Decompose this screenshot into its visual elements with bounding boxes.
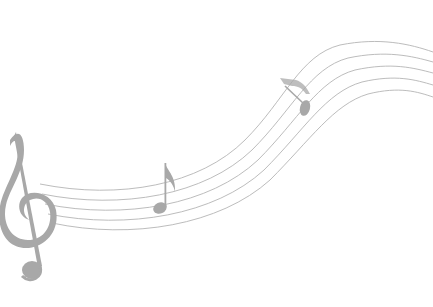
staff-line-4 [48,78,433,220]
staff-line-1 [40,41,433,190]
staff-svg [0,0,433,307]
staff-line-2 [42,54,433,200]
treble-clef-icon [0,132,57,280]
staff [40,41,433,229]
staff-line-5 [52,90,433,230]
eighth-note-icon [151,163,175,216]
music-illustration: Music staff with treble clef and notes [0,0,433,307]
eighth-note-icon [280,78,312,117]
